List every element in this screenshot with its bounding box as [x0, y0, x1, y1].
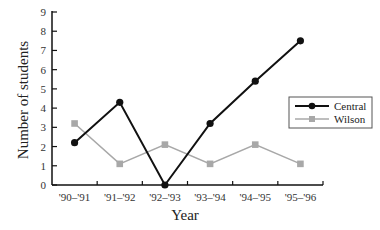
data-point-square — [162, 141, 169, 148]
y-tick-label: 9 — [41, 6, 47, 18]
series-lines — [71, 37, 304, 188]
data-point-square — [297, 161, 304, 168]
data-point-circle — [206, 120, 213, 127]
series-central — [71, 37, 304, 188]
y-tick-label: 0 — [41, 179, 47, 191]
data-point-square — [252, 141, 259, 148]
legend-label-central: Central — [334, 100, 366, 112]
y-tick-label: 2 — [41, 141, 47, 153]
series-line — [75, 41, 301, 185]
data-point-square — [207, 161, 214, 168]
legend-marker-circle — [309, 103, 316, 110]
y-tick-label: 8 — [41, 25, 47, 37]
data-point-square — [116, 161, 123, 168]
x-tick-label: '91–'92 — [104, 191, 135, 203]
data-point-square — [71, 120, 78, 127]
x-tick-label: '95–'96 — [285, 191, 317, 203]
data-point-circle — [71, 139, 78, 146]
y-tick-label: 7 — [41, 44, 47, 56]
series-wilson — [71, 120, 303, 167]
legend-label-wilson: Wilson — [334, 113, 366, 125]
data-point-circle — [116, 99, 123, 106]
data-point-circle — [252, 78, 259, 85]
y-tick-label: 5 — [41, 83, 47, 95]
x-axis-title: Year — [171, 207, 199, 223]
axes: 0123456789'90–'91'91–'92'92–'93'93–'94'9… — [41, 6, 324, 203]
y-tick-label: 6 — [41, 64, 47, 76]
y-axis-title: Number of students — [15, 41, 31, 159]
y-tick-label: 1 — [41, 160, 47, 172]
legend: CentralWilson — [289, 97, 372, 128]
y-tick-label: 3 — [41, 121, 47, 133]
data-point-circle — [297, 37, 304, 44]
x-tick-label: '90–'91 — [59, 191, 90, 203]
x-tick-label: '93–'94 — [194, 191, 226, 203]
series-line — [75, 123, 301, 163]
y-tick-label: 4 — [41, 102, 47, 114]
x-tick-label: '94–'95 — [240, 191, 272, 203]
line-chart: 0123456789'90–'91'91–'92'92–'93'93–'94'9… — [0, 0, 380, 230]
data-point-circle — [161, 181, 168, 188]
x-tick-label: '92–'93 — [149, 191, 181, 203]
legend-marker-square — [309, 116, 315, 122]
